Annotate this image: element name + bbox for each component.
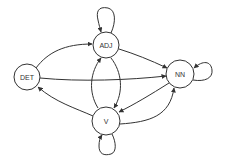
edge-nn-to-v — [119, 83, 169, 112]
edge-adj-to-nn — [119, 49, 167, 68]
edge-v-self-loop — [99, 134, 115, 155]
node-nn-label: NN — [175, 71, 185, 78]
node-adj-label: ADJ — [99, 42, 112, 49]
edge-v-to-adj — [92, 58, 101, 108]
edge-v-to-nn — [120, 88, 174, 124]
edge-adj-to-v — [111, 58, 120, 108]
edge-nn-self-loop — [193, 63, 212, 81]
node-det: DET — [14, 64, 40, 90]
node-v: V — [92, 107, 120, 135]
edge-det-to-nn — [40, 76, 166, 80]
edge-v-to-det — [38, 87, 93, 116]
node-nn: NN — [166, 60, 194, 88]
state-diagram: DET ADJ NN V — [0, 0, 225, 161]
node-adj: ADJ — [93, 32, 119, 58]
edge-adj-self-loop — [97, 8, 114, 33]
edge-det-to-adj — [36, 44, 92, 68]
node-det-label: DET — [20, 74, 35, 81]
node-v-label: V — [104, 118, 109, 125]
